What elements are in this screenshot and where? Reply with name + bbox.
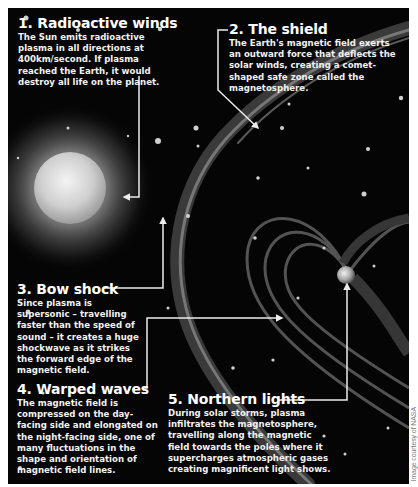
callout-body: Since plasma is supersonic – travelling … <box>17 298 147 376</box>
callout-heading: 3. Bow shock <box>17 282 147 297</box>
sun <box>34 152 106 224</box>
callout-body: The Sun emits radioactive plasma in all … <box>18 32 178 88</box>
callout-heading: 2. The shield <box>229 22 404 37</box>
callout-body: The magnetic field is compressed on the … <box>17 398 162 476</box>
callout-northern-lights: 5. Northern lights During solar storms, … <box>168 392 333 475</box>
image-credit: Image courtesy of NASA <box>410 407 417 481</box>
infographic-panel: 1. Radioactive winds The Sun emits radio… <box>8 8 409 484</box>
earth <box>337 266 355 284</box>
callout-the-shield: 2. The shield The Earth's magnetic field… <box>229 22 404 94</box>
callout-body: The Earth's magnetic field exerts an out… <box>229 38 404 94</box>
callout-heading: 4. Warped waves <box>17 382 162 397</box>
callout-warped-waves: 4. Warped waves The magnetic field is co… <box>17 382 162 476</box>
callout-body: During solar storms, plasma infiltrates … <box>168 408 333 475</box>
callout-heading: 1. Radioactive winds <box>18 16 178 31</box>
callout-heading: 5. Northern lights <box>168 392 333 407</box>
callout-bow-shock: 3. Bow shock Since plasma is supersonic … <box>17 282 147 376</box>
callout-radioactive-winds: 1. Radioactive winds The Sun emits radio… <box>18 16 178 88</box>
